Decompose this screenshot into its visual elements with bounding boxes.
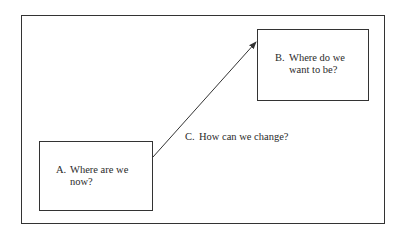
arrow-label-letter: C.	[185, 131, 199, 143]
arrow-icon	[0, 0, 402, 237]
arrow-label: C.How can we change?	[185, 131, 289, 143]
arrow-label-text: How can we change?	[199, 131, 289, 142]
